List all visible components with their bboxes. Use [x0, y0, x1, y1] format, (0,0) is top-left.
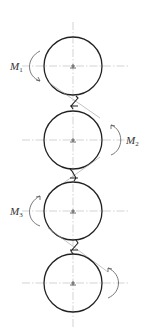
roller-4	[22, 254, 128, 312]
roller-3: M3	[9, 182, 128, 240]
roller-1: M1	[9, 37, 128, 95]
moment-label-m1: M1	[9, 60, 23, 74]
roller-3-center-mark-icon	[70, 209, 76, 213]
coupling-3-4	[48, 228, 108, 272]
roller-1-center-mark-icon	[70, 64, 76, 68]
moment-label-m3: M3	[9, 205, 23, 219]
roller-chain-diagram: M1 M2 M3	[0, 0, 148, 331]
roller-4-center-mark-icon	[70, 281, 76, 285]
roller-2-center-mark-icon	[70, 138, 76, 142]
roller-2: M2	[22, 111, 139, 169]
moment-label-m2: M2	[125, 134, 139, 148]
coupling-3-4-spring-icon	[70, 240, 78, 254]
coupling-2-3-spring-icon	[70, 169, 78, 181]
